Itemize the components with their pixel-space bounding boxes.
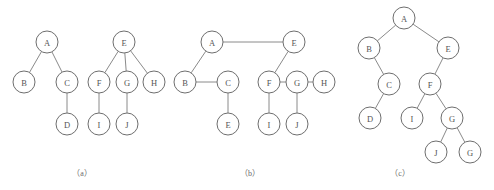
graph-edge [275, 51, 288, 72]
panel-caption: （b） [240, 169, 260, 178]
panel-caption: （c） [390, 169, 410, 178]
node-circle[interactable] [88, 113, 110, 135]
node-circle[interactable] [217, 71, 239, 93]
graph-node[interactable]: G [286, 71, 308, 93]
graph-edge [375, 94, 383, 109]
graph-edge [29, 52, 41, 73]
nodes-layer: ABCDEFGHIJAEBCFGHEIJABECFDIGJG [13, 7, 481, 163]
graph-edge [441, 128, 448, 142]
node-circle[interactable] [358, 37, 380, 59]
graph-node[interactable]: E [437, 37, 459, 59]
node-circle[interactable] [419, 73, 441, 95]
graph-edge [131, 51, 148, 73]
graph-node[interactable]: C [56, 71, 78, 93]
node-circle[interactable] [258, 113, 280, 135]
node-circle[interactable] [401, 107, 423, 129]
graph-node[interactable]: J [116, 113, 138, 135]
graph-edge [417, 94, 425, 109]
graph-node[interactable]: F [258, 71, 280, 93]
node-circle[interactable] [286, 71, 308, 93]
graph-edge [377, 25, 395, 41]
node-circle[interactable] [174, 71, 196, 93]
graph-node[interactable]: A [393, 7, 415, 29]
graph-node[interactable]: I [258, 113, 280, 135]
graph-node[interactable]: B [13, 71, 35, 93]
graph-edge [457, 128, 465, 143]
node-circle[interactable] [143, 71, 165, 93]
node-circle[interactable] [258, 71, 280, 93]
graph-node[interactable]: E [283, 31, 305, 53]
node-circle[interactable] [425, 141, 447, 163]
graph-edge [374, 58, 383, 75]
graph-node[interactable]: G [441, 107, 463, 129]
graph-node[interactable]: B [174, 71, 196, 93]
graph-node[interactable]: D [359, 107, 381, 129]
panel-caption: （a） [72, 169, 92, 178]
graph-edge [125, 53, 126, 71]
node-circle[interactable] [201, 31, 223, 53]
node-circle[interactable] [56, 113, 78, 135]
graph-node[interactable]: F [88, 71, 110, 93]
graph-node[interactable]: B [358, 37, 380, 59]
graph-node[interactable]: E [217, 113, 239, 135]
node-circle[interactable] [313, 71, 335, 93]
node-circle[interactable] [286, 113, 308, 135]
node-circle[interactable] [116, 71, 138, 93]
node-circle[interactable] [36, 31, 58, 53]
graph-edge [413, 24, 439, 42]
node-circle[interactable] [437, 37, 459, 59]
node-circle[interactable] [116, 113, 138, 135]
node-circle[interactable] [13, 71, 35, 93]
figure-root: ABCDEFGHIJAEBCFGHEIJABECFDIGJG （a）（b）（c） [0, 0, 494, 190]
node-circle[interactable] [88, 71, 110, 93]
node-circle[interactable] [441, 107, 463, 129]
graph-edge [436, 93, 446, 109]
graph-node[interactable]: G [116, 71, 138, 93]
graph-edge [105, 51, 118, 72]
graph-node[interactable]: I [88, 113, 110, 135]
node-circle[interactable] [378, 73, 400, 95]
graph-node[interactable]: C [217, 71, 239, 93]
graph-node[interactable]: D [56, 113, 78, 135]
graph-node[interactable]: H [313, 71, 335, 93]
graph-edge [191, 51, 206, 73]
graph-node[interactable]: G [459, 141, 481, 163]
graph-node[interactable]: J [286, 113, 308, 135]
graph-node[interactable]: C [378, 73, 400, 95]
graph-node[interactable]: H [143, 71, 165, 93]
node-circle[interactable] [359, 107, 381, 129]
node-circle[interactable] [459, 141, 481, 163]
graph-node[interactable]: E [113, 31, 135, 53]
node-circle[interactable] [393, 7, 415, 29]
graph-node[interactable]: A [36, 31, 58, 53]
node-circle[interactable] [217, 113, 239, 135]
graph-node[interactable]: A [201, 31, 223, 53]
graph-edge [52, 52, 62, 72]
graph-node[interactable]: I [401, 107, 423, 129]
graph-edge [435, 58, 443, 74]
graph-node[interactable]: F [419, 73, 441, 95]
graph-diagram-canvas: ABCDEFGHIJAEBCFGHEIJABECFDIGJG （a）（b）（c） [0, 0, 494, 190]
node-circle[interactable] [283, 31, 305, 53]
node-circle[interactable] [56, 71, 78, 93]
captions-layer: （a）（b）（c） [72, 169, 410, 178]
node-circle[interactable] [113, 31, 135, 53]
graph-node[interactable]: J [425, 141, 447, 163]
